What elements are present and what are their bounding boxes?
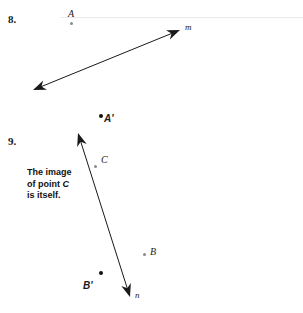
worksheet-page: 8. A A' m 9. The image of point C is its…	[0, 0, 303, 313]
geometry-lines-overlay	[0, 0, 303, 313]
lines-group	[33, 30, 180, 297]
line-m-segment	[39, 32, 174, 87]
line-n-segment	[80, 139, 128, 291]
